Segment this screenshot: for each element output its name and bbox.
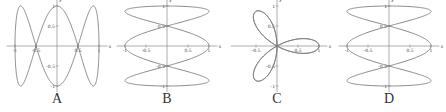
y-tick-label: -1 (271, 84, 276, 89)
panel-label-b: B (112, 91, 222, 107)
panel-b: xy-1-0.50.5110.5-0.5-1 B (112, 0, 222, 112)
x-tick-label: 0.5 (74, 48, 81, 53)
panel-a: xy-1-0.50.5110.5-0.5-1 A (2, 0, 112, 112)
panel-c: xy-0.50.5110.5-0.5-1 C (222, 0, 332, 112)
panel-label-d: D (334, 91, 444, 107)
y-axis-label: y (168, 0, 172, 3)
y-tick-label: 1 (272, 4, 275, 9)
x-axis-label: x (218, 43, 221, 49)
x-tick-label: -1 (345, 48, 350, 53)
x-tick-label: -1 (123, 48, 128, 53)
plot-b: xy-1-0.50.5110.5-0.5-1 (112, 0, 222, 92)
x-axis-label: x (440, 43, 443, 49)
x-axis-label: x (328, 43, 331, 49)
plot-d: xy-1-0.50.5110.5-0.5-1 (334, 0, 444, 92)
x-tick-label: 0.5 (406, 48, 413, 53)
panel-d: xy-1-0.50.5110.5-0.5-1 D (334, 0, 444, 112)
x-tick-label: -0.5 (142, 48, 151, 53)
plot-c: xy-0.50.5110.5-0.5-1 (222, 0, 332, 92)
x-tick-label: -0.5 (32, 48, 41, 53)
x-tick-label: -0.5 (364, 48, 373, 53)
y-axis-label: y (390, 0, 394, 3)
figure: xy-1-0.50.5110.5-0.5-1 A xy-1-0.50.5110.… (0, 0, 446, 112)
x-tick-label: 0.5 (184, 48, 191, 53)
y-axis-label: y (58, 0, 62, 3)
x-tick-label: -0.5 (252, 48, 261, 53)
panel-label-a: A (2, 91, 112, 107)
y-tick-label: -0.5 (46, 64, 55, 69)
x-axis-label: x (108, 43, 111, 49)
panel-label-c: C (222, 91, 332, 107)
y-tick-label: 0.5 (48, 24, 55, 29)
plot-a: xy-1-0.50.5110.5-0.5-1 (2, 0, 112, 92)
y-axis-label: y (278, 0, 282, 3)
